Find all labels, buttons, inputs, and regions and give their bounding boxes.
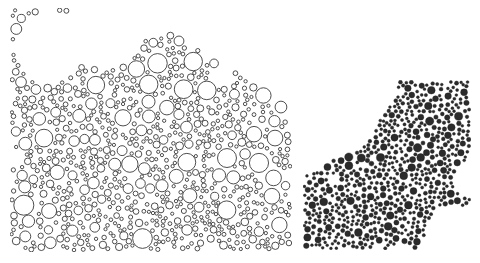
filled-disk [377, 221, 380, 224]
outlined-circle [44, 84, 52, 92]
filled-disk [395, 216, 398, 219]
filled-disk [337, 233, 340, 236]
outlined-circle [50, 165, 64, 179]
outlined-circle [139, 193, 145, 199]
filled-disk [424, 201, 427, 204]
outlined-circle [267, 130, 283, 146]
filled-disk [456, 139, 460, 143]
outlined-circle [126, 196, 130, 200]
filled-disk [345, 153, 353, 161]
outlined-circle [256, 222, 259, 225]
outlined-circle [129, 97, 132, 100]
outlined-circle [255, 190, 258, 193]
filled-disk [421, 173, 424, 176]
filled-disk [370, 169, 375, 174]
outlined-circle [278, 235, 282, 239]
outlined-circle [210, 226, 217, 233]
filled-disk [406, 160, 409, 163]
filled-disk [407, 134, 411, 138]
filled-disk [454, 154, 457, 157]
outlined-circle [202, 140, 205, 143]
filled-disk [381, 140, 384, 143]
outlined-circle [135, 219, 142, 226]
filled-disk [406, 109, 409, 112]
outlined-circle [165, 83, 171, 89]
outlined-circle [240, 176, 245, 181]
filled-disk [448, 148, 451, 151]
outlined-circle [85, 204, 93, 212]
outlined-circle [205, 63, 209, 67]
outlined-circle [57, 211, 61, 215]
filled-disk [342, 205, 346, 209]
outlined-circle [212, 201, 216, 205]
filled-disk [456, 192, 459, 195]
filled-disk [410, 100, 414, 104]
filled-disk [422, 234, 425, 237]
filled-disk [422, 99, 425, 102]
outlined-circle [261, 105, 265, 109]
outlined-circle [86, 243, 90, 247]
filled-disk [460, 141, 465, 146]
filled-disk [328, 219, 331, 222]
filled-disk [418, 102, 422, 106]
outlined-circle [23, 103, 26, 106]
outlined-circle [203, 134, 206, 137]
outlined-circle [252, 210, 258, 216]
filled-disk [391, 161, 394, 164]
outlined-circle [92, 110, 96, 114]
filled-disk [464, 100, 469, 105]
filled-disk [303, 208, 306, 211]
filled-disk [357, 219, 360, 222]
filled-disk [395, 211, 398, 214]
filled-disk [341, 229, 345, 233]
outlined-circle [52, 154, 55, 157]
outlined-circle [73, 86, 77, 90]
outlined-circle [200, 215, 203, 218]
filled-disk [325, 215, 329, 219]
outlined-circle [74, 206, 83, 215]
outlined-circle [211, 128, 214, 131]
filled-disk [308, 217, 311, 220]
outlined-circle [92, 191, 98, 197]
filled-disk [388, 189, 391, 192]
outlined-circle [200, 73, 203, 76]
outlined-circle [138, 163, 150, 175]
filled-disk [401, 232, 404, 235]
filled-disk [442, 127, 446, 131]
filled-disk [370, 204, 373, 207]
filled-disk [366, 239, 369, 242]
filled-disk [412, 121, 415, 124]
filled-disk [312, 214, 315, 217]
filled-disk [457, 132, 460, 135]
outlined-circle [212, 153, 215, 156]
outlined-circle [130, 129, 136, 135]
filled-disk [338, 218, 341, 221]
outlined-circle [140, 146, 143, 149]
outlined-circle [125, 206, 129, 210]
filled-disk [431, 206, 435, 210]
outlined-circle [66, 155, 70, 159]
filled-disk [429, 185, 433, 189]
filled-disk [397, 207, 403, 213]
filled-disk [397, 96, 400, 99]
filled-disk [464, 156, 467, 159]
outlined-circle [130, 137, 134, 141]
filled-disk [355, 191, 358, 194]
filled-disk [405, 201, 413, 209]
filled-disk [354, 194, 357, 197]
filled-disk [328, 236, 331, 239]
filled-disk [439, 104, 443, 108]
filled-disk [415, 235, 418, 238]
filled-disk [406, 194, 409, 197]
filled-disk [422, 109, 426, 113]
outlined-circle [14, 9, 17, 12]
filled-disk [412, 217, 416, 221]
filled-disk [320, 198, 328, 206]
filled-disk [351, 234, 355, 238]
outlined-circle [61, 106, 64, 109]
filled-disk [362, 187, 366, 191]
filled-disk [438, 94, 441, 97]
outlined-circle [278, 207, 284, 213]
outlined-circle [90, 246, 95, 251]
outlined-circle [37, 148, 42, 153]
